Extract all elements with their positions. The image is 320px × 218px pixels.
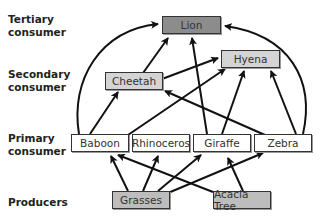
node-lion: Lion	[162, 16, 221, 34]
level-label-producers: Producers	[8, 196, 68, 209]
level-label-tertiary: Tertiaryconsumer	[8, 13, 66, 39]
food-web-diagram: Tertiaryconsumer Secondaryconsumer Prima…	[0, 0, 320, 218]
node-baboon: Baboon	[71, 134, 129, 152]
node-giraffe: Giraffe	[193, 134, 251, 152]
node-rhinoceros: Rhinoceros	[132, 134, 190, 152]
node-hyena: Hyena	[221, 50, 280, 68]
level-label-secondary: Secondaryconsumer	[8, 68, 70, 94]
level-label-primary: Primaryconsumer	[8, 132, 66, 158]
node-grasses: Grasses	[112, 191, 170, 209]
node-cheetah: Cheetah	[105, 72, 163, 90]
node-zebra: Zebra	[254, 134, 312, 152]
node-acacia-tree: Acacia Tree	[213, 191, 271, 209]
